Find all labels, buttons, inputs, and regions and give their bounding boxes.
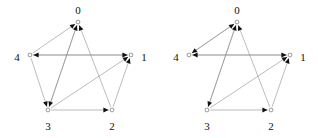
graph-panel-left: 01234: [0, 0, 159, 138]
vertex-node-2: [269, 108, 273, 112]
edge-3-to-1: [51, 57, 128, 108]
vertex-label-0: 0: [75, 4, 81, 16]
arrowhead-0-to-4: [192, 48, 198, 53]
edge-3-to-1: [210, 57, 287, 108]
vertex-node-4: [28, 53, 32, 57]
vertex-node-0: [76, 20, 80, 24]
graph-svg-right: 01234: [159, 0, 318, 138]
vertex-node-3: [46, 108, 50, 112]
vertices-group-right: [187, 20, 292, 112]
vertex-node-1: [288, 53, 292, 57]
vertex-label-0: 0: [234, 4, 240, 16]
vertex-label-2: 2: [268, 120, 274, 132]
arrowhead-3-to-2: [103, 108, 108, 113]
arrowhead-0-to-3: [208, 101, 213, 107]
vertex-node-4: [187, 53, 191, 57]
vertex-node-0: [235, 20, 239, 24]
arrowhead-4-to-1: [122, 53, 127, 58]
edge-2-to-0: [79, 25, 111, 107]
arrowhead-4-to-1: [281, 53, 286, 58]
vertex-node-2: [110, 108, 114, 112]
arrowhead-1-to-4: [33, 53, 38, 58]
arrowhead-3-to-2: [262, 108, 267, 113]
vertex-node-3: [205, 108, 209, 112]
vertex-label-1: 1: [141, 51, 147, 63]
edge-4-to-3: [31, 58, 47, 107]
vertex-label-3: 3: [204, 120, 210, 132]
edge-0-to-3: [49, 25, 77, 107]
figure-root: 01234 01234: [0, 0, 318, 138]
edge-0-to-3: [208, 25, 236, 107]
arrowhead-4-to-3: [43, 101, 48, 107]
graph-panel-right: 01234: [159, 0, 318, 138]
edges-group-left: [31, 24, 130, 110]
edge-2-to-0: [238, 25, 270, 107]
vertex-node-1: [129, 53, 133, 57]
edges-group-right: [192, 24, 289, 110]
vertex-label-3: 3: [45, 120, 51, 132]
graph-svg-left: 01234: [0, 0, 159, 138]
vertex-label-4: 4: [14, 51, 20, 63]
arrowhead-1-to-4: [192, 53, 197, 58]
vertex-label-2: 2: [109, 120, 115, 132]
arrowhead-0-to-3: [49, 101, 54, 107]
vertex-label-1: 1: [300, 51, 306, 63]
vertex-label-4: 4: [173, 51, 179, 63]
